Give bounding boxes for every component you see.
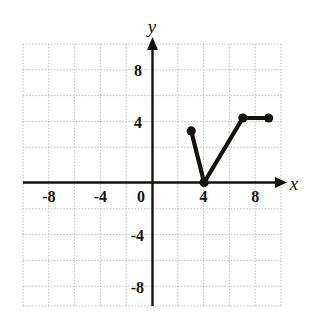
y-tick-label: -4	[131, 227, 144, 244]
graph-figure: x y -8 -4 0 4 8 8 4 -4 -8	[0, 0, 316, 332]
figure-background	[0, 0, 316, 332]
x-tick-label: 4	[200, 188, 208, 205]
x-tick-label: 8	[251, 188, 259, 205]
y-tick-label: -8	[131, 279, 144, 296]
data-point	[200, 178, 209, 187]
y-tick-label: 4	[134, 114, 142, 131]
data-point	[264, 113, 273, 122]
coordinate-plane-svg: x y -8 -4 0 4 8 8 4 -4 -8	[0, 0, 316, 332]
y-axis-label: y	[146, 16, 157, 37]
x-axis-label: x	[289, 173, 299, 194]
x-tick-label: 0	[137, 188, 145, 205]
x-tick-label: -8	[42, 188, 55, 205]
x-tick-label: -4	[94, 188, 107, 205]
data-point	[187, 126, 196, 135]
y-tick-label: 8	[134, 62, 142, 79]
data-point	[238, 113, 247, 122]
